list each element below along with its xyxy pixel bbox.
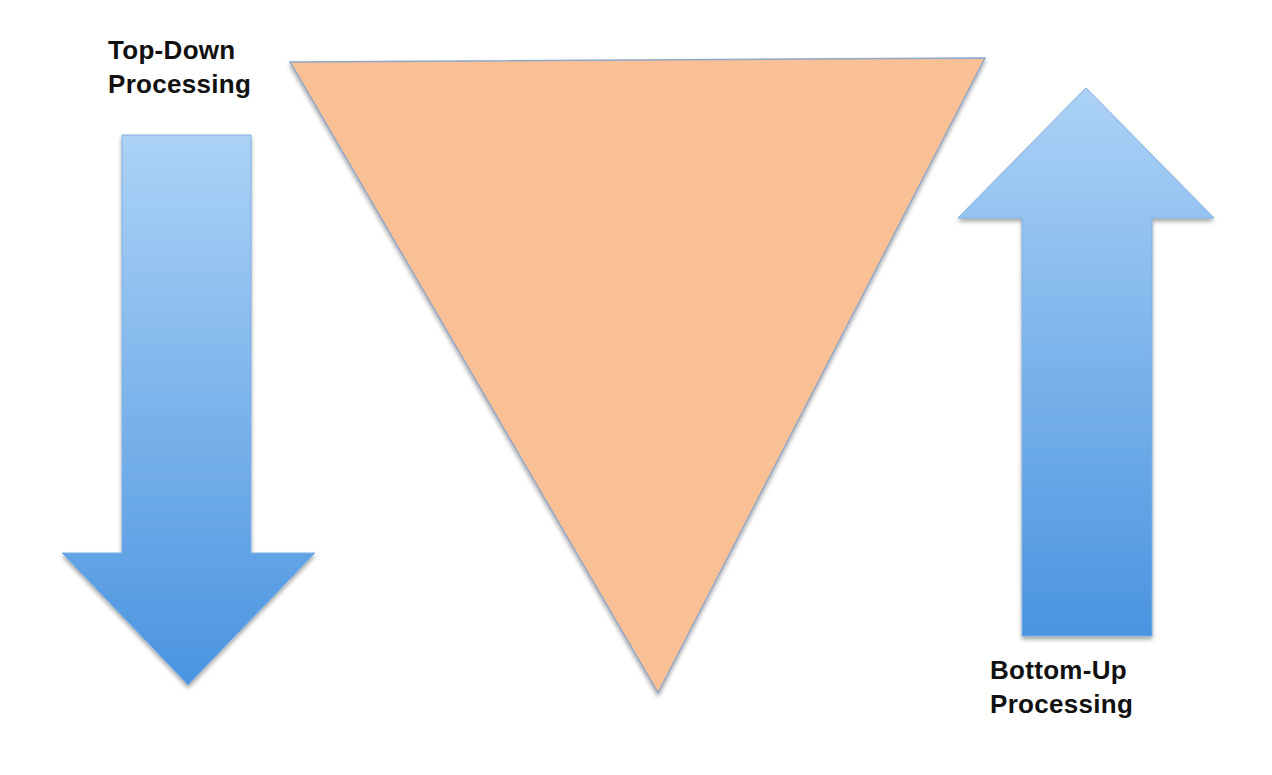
down-arrow-icon [62, 135, 315, 685]
top-down-label-line2: Processing [108, 67, 308, 101]
bottom-up-label-line2: Processing [990, 687, 1190, 721]
inverted-triangle-shape [290, 58, 985, 693]
up-arrow-icon [958, 88, 1214, 636]
top-down-label-line1: Top-Down [108, 33, 308, 67]
diagram-canvas: Top-Down Processing Bottom-Up Processing [0, 0, 1272, 775]
bottom-up-label-line1: Bottom-Up [990, 653, 1190, 687]
top-down-label: Top-Down Processing [108, 33, 308, 101]
bottom-up-label: Bottom-Up Processing [990, 653, 1190, 721]
